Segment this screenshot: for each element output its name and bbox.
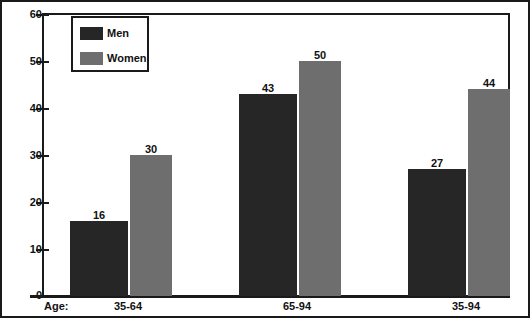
y-tick-label: 20 bbox=[10, 197, 42, 208]
bar-men-65-94[interactable] bbox=[239, 94, 297, 296]
y-tick-label: 40 bbox=[10, 103, 42, 114]
x-category-label-65-94: 65-94 bbox=[257, 300, 337, 312]
legend-swatch-women bbox=[80, 52, 103, 65]
y-tick-label: 30 bbox=[10, 150, 42, 161]
legend-label-men: Men bbox=[107, 27, 129, 40]
bar-value-women-35-64: 30 bbox=[125, 144, 177, 155]
bar-value-men-35-94: 27 bbox=[408, 158, 466, 169]
x-category-label-35-64: 35-64 bbox=[88, 300, 168, 312]
legend: Men Women bbox=[71, 16, 149, 72]
bar-chart-figure: 60 50 40 30 20 10 0 16 bbox=[0, 0, 530, 318]
legend-swatch-men bbox=[80, 27, 103, 40]
y-tick-label: 60 bbox=[10, 9, 42, 20]
x-category-label-35-94: 35-94 bbox=[426, 300, 506, 312]
bar-men-35-64[interactable] bbox=[70, 221, 128, 296]
bar-women-35-64[interactable] bbox=[130, 155, 172, 296]
bar-value-women-35-94: 44 bbox=[463, 78, 515, 89]
y-tick-label: 50 bbox=[10, 56, 42, 67]
x-axis-prefix-label: Age: bbox=[44, 300, 68, 312]
bar-women-35-94[interactable] bbox=[468, 89, 510, 296]
bar-value-women-65-94: 50 bbox=[294, 50, 346, 61]
bar-women-65-94[interactable] bbox=[299, 61, 341, 296]
bar-men-35-94[interactable] bbox=[408, 169, 466, 296]
legend-label-women: Women bbox=[107, 52, 147, 65]
bar-value-men-35-64: 16 bbox=[70, 210, 128, 221]
y-tick-label: 10 bbox=[10, 244, 42, 255]
bar-value-men-65-94: 43 bbox=[239, 83, 297, 94]
